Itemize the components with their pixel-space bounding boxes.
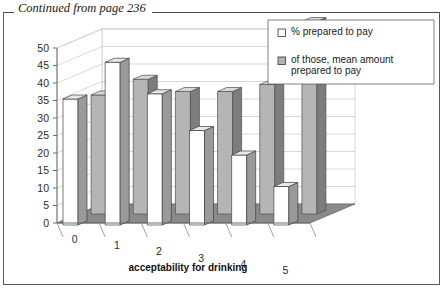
y-tick-label: 25 [37,129,49,141]
bar-series1-face [274,187,289,226]
y-tick-label: 5 [43,199,49,211]
y-tick-label: 50 [37,42,49,54]
bar-series1-face [147,94,162,225]
x-axis-title: acceptability for drinking [129,262,248,273]
y-axis: 05101520253035404550 [37,42,57,229]
bar-series2-face [91,95,106,214]
y-tick-label: 10 [37,182,49,194]
x-tick [226,223,232,237]
panel-border-left [3,12,4,285]
panel-border-right [439,12,440,285]
bar-series2-face [260,85,275,215]
bar-series1-side [205,127,214,226]
panel-border-bottom [3,284,440,285]
x-tick [310,223,316,237]
bar-series2-face [133,79,148,214]
y-tick-label: 30 [37,112,49,124]
bar-chart-3d: 05101520253035404550 012345 % prepared t… [0,0,443,295]
legend-swatch-1 [278,57,286,65]
x-tick [141,223,147,237]
x-tick [57,223,63,237]
continued-from-note: Continued from page 236 [14,1,150,16]
legend-label-1: of those, mean amount [291,54,394,65]
y-tick-label: 45 [37,59,49,71]
x-tick-label: 5 [283,264,289,276]
legend-swatch-0 [278,29,286,37]
y-tick-label: 15 [37,164,49,176]
bar-series1-side [247,151,256,225]
legend-label-1: prepared to pay [291,65,361,76]
bar-series1-side [120,58,129,225]
x-tick [268,223,274,237]
bar-series1-side [289,183,298,226]
x-tick-label: 0 [72,233,78,245]
x-tick [184,223,190,237]
x-tick [99,223,105,237]
y-tick-label: 35 [37,94,49,106]
chart-legend: % prepared to payof those, mean amountpr… [268,20,434,84]
x-tick-label: 1 [114,239,120,251]
bar-series1-side [78,95,87,225]
header-rule-right [152,12,440,13]
figure-panel: Continued from page 236 0510152025303540… [0,0,443,295]
bar-series1-face [190,131,205,226]
bar-series1-face [105,62,120,225]
bar-series1-face [63,99,78,225]
bar-series2-face [175,92,190,215]
bar-series1-face [232,155,247,225]
bar-series2-face [218,92,233,215]
y-tick-label: 0 [43,217,49,229]
y-tick-label: 20 [37,147,49,159]
bar-series1-side [162,90,171,225]
x-tick-label: 2 [156,245,162,257]
legend-label-0: % prepared to pay [291,26,373,37]
y-tick-label: 40 [37,77,49,89]
